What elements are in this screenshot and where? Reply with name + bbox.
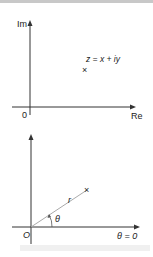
reference-angle-label: θ = 0 <box>117 231 137 241</box>
im-axis-arrow-icon <box>28 20 33 26</box>
re-label: Re <box>131 111 143 121</box>
point-marker-icon: × <box>84 185 89 195</box>
re-axis-arrow-icon <box>130 105 136 110</box>
point-label: z = x + iy <box>85 54 121 64</box>
im-label: Im <box>17 19 27 29</box>
vertical-axis-arrow-icon <box>29 134 34 140</box>
origin-label: O <box>23 230 30 240</box>
origin-label: 0 <box>22 110 27 120</box>
horizontal-axis-arrow-icon <box>134 225 140 230</box>
complex-plane-diagrams: Im Re 0 z = x + iy × × r θ O θ = 0 <box>0 0 153 257</box>
cartesian-diagram: Im Re 0 z = x + iy × <box>12 19 143 121</box>
angle-label: θ <box>55 214 60 224</box>
polar-diagram: × r θ O θ = 0 <box>12 134 140 244</box>
point-marker-icon: × <box>82 65 87 75</box>
bottom-band <box>20 245 150 251</box>
